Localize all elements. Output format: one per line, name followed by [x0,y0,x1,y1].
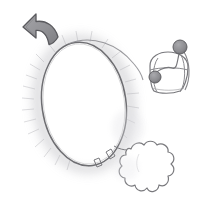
gray-dot-lower-left [149,71,161,83]
gray-dot-upper [173,40,187,54]
sketch-illustration [0,0,210,212]
drawing-canvas: Hand-drawn sketch: fuzzy oval with rotat… [0,0,210,212]
